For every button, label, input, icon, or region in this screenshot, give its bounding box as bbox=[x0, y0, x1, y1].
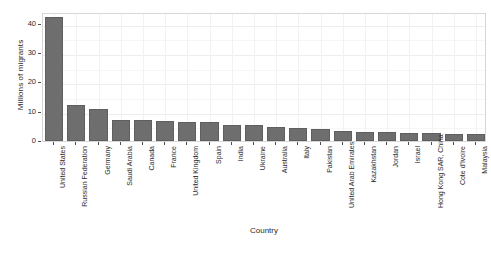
y-axis-tick-labels: 010203040 bbox=[16, 12, 36, 146]
bar-chart: Millions of migrants 010203040 United St… bbox=[0, 0, 491, 256]
x-axis-tick-mark bbox=[186, 142, 187, 145]
x-axis-tick-label: Hong Kong SAR, China bbox=[434, 146, 448, 208]
x-axis-tick-mark bbox=[231, 142, 232, 145]
bar bbox=[289, 128, 307, 141]
y-axis-tick-label: 20 bbox=[16, 78, 36, 86]
x-axis-tick-mark bbox=[120, 142, 121, 145]
x-axis-tick-mark bbox=[453, 142, 454, 145]
bar bbox=[45, 17, 63, 141]
bar bbox=[356, 132, 374, 141]
bar bbox=[134, 120, 152, 141]
bar bbox=[89, 109, 107, 141]
x-axis-tick-label: Cote d'Ivoire bbox=[456, 146, 470, 208]
x-axis-tick-label: Kazakhstan bbox=[367, 146, 381, 208]
x-axis-tick-mark bbox=[342, 142, 343, 145]
x-axis-tick-label: Saudi Arabia bbox=[123, 146, 137, 208]
bar bbox=[400, 133, 418, 142]
bar bbox=[67, 105, 85, 141]
x-axis-tick-mark bbox=[209, 142, 210, 145]
x-axis-tick-label: Australia bbox=[278, 146, 292, 208]
x-axis-tick-mark bbox=[320, 142, 321, 145]
x-axis-tick-label: Pakistan bbox=[323, 146, 337, 208]
x-axis-tick-mark bbox=[275, 142, 276, 145]
x-axis-tick-label: Russian Federation bbox=[78, 146, 92, 208]
y-axis-tick-mark bbox=[38, 112, 41, 113]
x-axis-tick-label: France bbox=[167, 146, 181, 208]
x-axis-title: Country bbox=[42, 226, 486, 235]
y-axis-tick-label: 10 bbox=[16, 108, 36, 116]
bar bbox=[223, 125, 241, 141]
x-axis-tick-mark bbox=[386, 142, 387, 145]
x-axis-tick-label: Malaysia bbox=[478, 146, 491, 208]
y-axis-tick-label: 40 bbox=[16, 20, 36, 28]
x-axis-tick-labels: United StatesRussian FederationGermanySa… bbox=[42, 146, 486, 212]
x-axis-tick-mark bbox=[98, 142, 99, 145]
x-axis-tick-mark bbox=[431, 142, 432, 145]
bar bbox=[445, 134, 463, 141]
bar bbox=[245, 125, 263, 141]
bar bbox=[178, 122, 196, 141]
bar bbox=[267, 127, 285, 141]
x-axis-tick-mark bbox=[253, 142, 254, 145]
y-axis-tick-label: 30 bbox=[16, 49, 36, 57]
y-axis-tick-mark bbox=[38, 82, 41, 83]
x-axis-tick-mark bbox=[475, 142, 476, 145]
x-axis-tick-mark bbox=[142, 142, 143, 145]
bar bbox=[334, 131, 352, 141]
y-axis-tick-mark bbox=[38, 24, 41, 25]
x-axis-tick-label: Ukraine bbox=[256, 146, 270, 208]
x-axis-tick-mark bbox=[53, 142, 54, 145]
x-axis-tick-mark bbox=[408, 142, 409, 145]
y-axis-tick-mark bbox=[38, 141, 41, 142]
x-axis-tick-label: United Kingdom bbox=[189, 146, 203, 208]
x-axis-tick-mark bbox=[75, 142, 76, 145]
y-axis-tick-mark bbox=[38, 53, 41, 54]
x-axis-tick-label: Spain bbox=[212, 146, 226, 208]
x-axis-tick-label: Canada bbox=[145, 146, 159, 208]
x-axis-tick-label: United Arab Emirates bbox=[345, 146, 359, 208]
bar bbox=[200, 122, 218, 141]
x-axis-tick-label: Israel bbox=[411, 146, 425, 208]
bar bbox=[467, 134, 485, 141]
x-axis-tick-mark bbox=[364, 142, 365, 145]
x-axis-tick-label: Italy bbox=[300, 146, 314, 208]
bar bbox=[156, 121, 174, 141]
bar bbox=[311, 129, 329, 141]
x-axis-tick-label: Germany bbox=[101, 146, 115, 208]
plot-panel bbox=[42, 13, 486, 142]
y-axis-tick-label: 0 bbox=[16, 137, 36, 145]
x-axis-tick-label: United States bbox=[56, 146, 70, 208]
x-axis-tick-label: India bbox=[234, 146, 248, 208]
bar bbox=[378, 132, 396, 141]
x-axis-tick-label: Jordan bbox=[389, 146, 403, 208]
x-axis-tick-mark bbox=[164, 142, 165, 145]
x-axis-tick-mark bbox=[297, 142, 298, 145]
bars-group bbox=[43, 14, 485, 141]
bar bbox=[112, 120, 130, 141]
